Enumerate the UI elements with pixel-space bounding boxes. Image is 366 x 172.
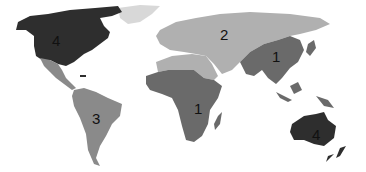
region-north-america[interactable]: [16, 6, 122, 66]
region-south-america[interactable]: [72, 88, 122, 166]
world-map: 4 2 1 3 1 4: [0, 0, 366, 172]
region-greenland[interactable]: [118, 5, 160, 24]
region-japan[interactable]: [306, 40, 316, 56]
region-maritime-asia[interactable]: [276, 82, 334, 108]
region-caribbean[interactable]: [80, 75, 86, 77]
region-madagascar[interactable]: [214, 112, 222, 130]
label-africa: 1: [194, 100, 202, 117]
label-south-america: 3: [92, 110, 100, 127]
label-australia: 4: [312, 126, 320, 143]
world-map-svg: 4 2 1 3 1 4: [0, 0, 366, 172]
label-north-america: 4: [52, 32, 60, 49]
label-asia: 1: [272, 48, 280, 65]
label-europe-russia: 2: [220, 26, 228, 43]
region-sub-saharan-africa[interactable]: [146, 70, 222, 142]
region-new-zealand[interactable]: [326, 146, 346, 162]
